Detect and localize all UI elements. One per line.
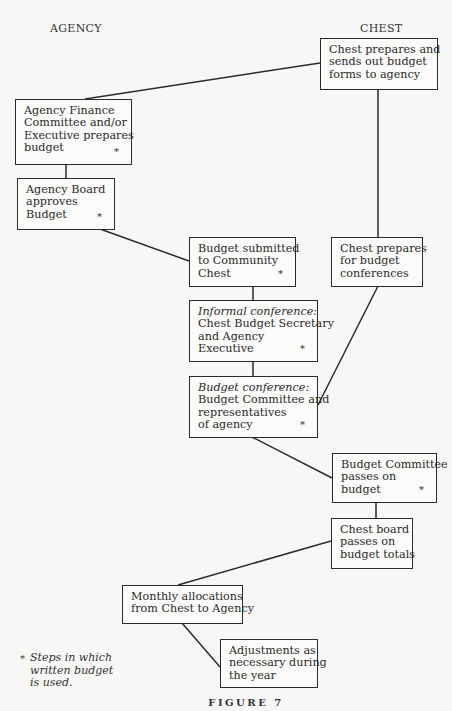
footnote-legend: * Steps in which written budget is used. — [20, 652, 113, 690]
box-text: of agency — [198, 419, 311, 431]
box-text: conferences — [340, 268, 416, 280]
box-text: for budget — [340, 255, 416, 267]
column-header-agency: AGENCY — [50, 22, 102, 35]
box-agency-finance: Agency Finance Committee and/or Executiv… — [15, 99, 132, 165]
connector-monthly-to-adjustments — [182, 623, 220, 667]
box-chest-board-passes: Chest board passes on budget totals — [331, 518, 413, 569]
box-text: Chest — [198, 268, 289, 280]
box-text: budget — [24, 142, 125, 154]
connector-chest-prepares-to-conference — [318, 286, 378, 405]
footnote-asterisk: * — [20, 653, 25, 666]
written-budget-asterisk: * — [278, 268, 283, 280]
box-text: Executive — [198, 343, 311, 355]
box-text: to Community — [198, 255, 289, 267]
box-adjustments: Adjustments as necessary during the year — [220, 639, 318, 688]
box-text: budget — [341, 484, 430, 496]
written-budget-asterisk: * — [300, 419, 305, 431]
written-budget-asterisk: * — [300, 343, 305, 355]
box-text: Budget — [26, 209, 108, 221]
box-text: necessary during — [229, 657, 311, 669]
column-header-chest: CHEST — [360, 22, 402, 35]
box-informal-conference: Informal conference: Chest Budget Secret… — [189, 300, 318, 362]
box-budget-submitted: Budget submitted to Community Chest * — [189, 237, 296, 287]
box-budget-conference: Budget conference: Budget Committee and … — [189, 376, 318, 438]
box-text: Committee and/or — [24, 117, 125, 129]
box-budget-committee-passes: Budget Committee passes on budget * — [332, 453, 437, 503]
figure-caption-text: FIGURE 7 — [168, 697, 283, 708]
box-text: the year — [229, 670, 311, 682]
written-budget-asterisk: * — [114, 146, 119, 158]
connector-board-to-submitted — [100, 229, 189, 261]
box-text: sends out budget — [329, 56, 431, 68]
box-text: forms to agency — [329, 69, 431, 81]
box-chest-sends-forms: Chest prepares and sends out budget form… — [320, 38, 438, 90]
footnote-text: Steps in which — [20, 652, 113, 665]
connector-conference-to-committee — [252, 437, 332, 478]
connector-chest-forms-to-agency-finance — [85, 63, 320, 99]
box-text: approves — [26, 196, 108, 208]
box-monthly-allocations: Monthly allocations from Chest to Agency — [122, 585, 243, 624]
written-budget-asterisk: * — [97, 211, 102, 223]
figure-caption: FIGURE 7 — [0, 697, 452, 708]
box-text: passes on — [341, 471, 430, 483]
box-text: budget totals — [340, 549, 406, 561]
box-text: Chest Budget Secretary — [198, 318, 311, 330]
box-chest-prepares-conferences: Chest prepares for budget conferences — [331, 237, 423, 287]
written-budget-asterisk: * — [419, 484, 424, 496]
connector-chest-board-to-monthly — [178, 541, 331, 585]
box-agency-board: Agency Board approves Budget * — [17, 178, 115, 230]
box-text: from Chest to Agency — [131, 603, 236, 615]
box-text: passes on — [340, 536, 406, 548]
footnote-text: is used. — [20, 677, 113, 690]
box-text: Budget Committee and — [198, 394, 311, 406]
